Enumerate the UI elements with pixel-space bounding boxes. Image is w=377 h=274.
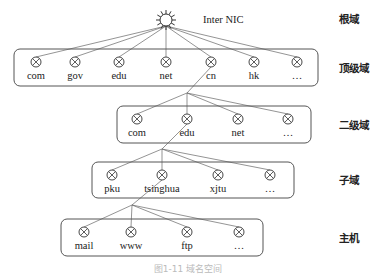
edges: [36, 26, 297, 227]
node-sub-domain-0: pku: [104, 170, 121, 194]
node-label: cn: [206, 70, 217, 81]
node-host-1: www: [120, 227, 143, 251]
node-label: com: [27, 70, 45, 81]
node-label: pku: [104, 183, 121, 194]
level-label-root: 根域: [339, 13, 360, 25]
sub-domain-box: [92, 162, 294, 198]
node-sub-domain-1: tsinghua: [144, 170, 180, 194]
level-labels: 顶级域二级域子域主机: [339, 62, 370, 244]
node-label: www: [120, 240, 143, 251]
node-host-3: …: [234, 227, 245, 251]
node-label: mail: [75, 240, 94, 251]
node-label: …: [234, 240, 245, 251]
node-top-level-0: com: [27, 57, 45, 81]
node-label: ftp: [181, 240, 193, 251]
node-label: …: [265, 183, 276, 194]
level-label-second-level: 二级域: [339, 119, 370, 131]
level-label-sub-domain: 子域: [339, 174, 360, 186]
node-sub-domain-3: …: [265, 170, 276, 194]
node-label: gov: [67, 70, 84, 81]
node-label: hk: [249, 70, 260, 81]
node-second-level-3: …: [283, 114, 294, 138]
node-top-level-3: net: [160, 57, 173, 81]
node-second-level-1: edu: [179, 114, 195, 138]
level-label-top-level: 顶级域: [339, 62, 370, 74]
node-label: com: [128, 127, 146, 138]
node-label: edu: [111, 70, 127, 81]
node-label: xjtu: [210, 183, 227, 194]
node-label: …: [283, 127, 294, 138]
figure-caption: 图1-11 域名空间: [154, 263, 222, 274]
level-label-host: 主机: [339, 232, 360, 244]
root-label: Inter NIC: [203, 14, 244, 25]
node-top-level-2: edu: [111, 57, 127, 81]
dns-hierarchy-diagram: Inter NIC 根域 comgovedunetcnhk…comedunet……: [0, 0, 377, 274]
node-second-level-2: net: [232, 114, 245, 138]
node-host-2: ftp: [181, 227, 193, 251]
node-label: …: [292, 70, 303, 81]
node-label: edu: [179, 127, 195, 138]
node-label: net: [232, 127, 245, 138]
node-label: net: [160, 70, 173, 81]
node-sub-domain-2: xjtu: [210, 170, 227, 194]
node-host-0: mail: [75, 227, 94, 251]
node-top-level-5: hk: [249, 57, 260, 81]
node-top-level-6: …: [292, 57, 303, 81]
node-top-level-4: cn: [206, 57, 217, 81]
node-second-level-0: com: [128, 114, 146, 138]
node-top-level-1: gov: [67, 57, 84, 81]
node-label: tsinghua: [144, 183, 180, 194]
sun-icon: [156, 10, 176, 30]
